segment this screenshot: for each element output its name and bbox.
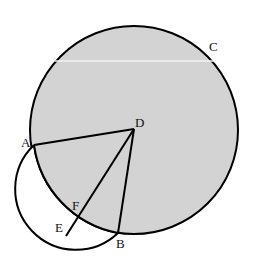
label-A: A [21, 135, 31, 150]
label-C: C [209, 39, 218, 54]
label-B: B [116, 236, 125, 251]
label-D: D [135, 115, 144, 130]
label-E: E [55, 220, 63, 235]
geometry-diagram: A B C D E F [0, 0, 255, 266]
label-F: F [72, 198, 79, 213]
